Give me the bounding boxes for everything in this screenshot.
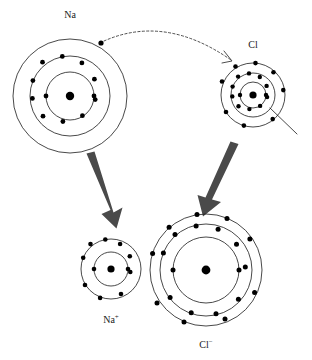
chloride-ion-charge-superscript: −: [209, 338, 213, 346]
electron-dot: [230, 94, 234, 98]
electron-dot: [93, 97, 98, 102]
electron-dot: [242, 123, 247, 128]
electron-dot: [214, 311, 219, 316]
bohr-model-canvas: Na: [0, 0, 312, 360]
electron-dot: [258, 104, 262, 108]
electron-dot: [195, 212, 200, 217]
electron-dot: [103, 237, 108, 242]
electron-dot: [223, 317, 228, 322]
chlorine-atom-label: Cl: [248, 39, 258, 50]
electron-dot: [155, 301, 160, 306]
electron-dot: [247, 71, 251, 75]
electron-dot: [171, 268, 176, 273]
diagram-background: [0, 0, 312, 360]
electron-dot: [98, 296, 103, 301]
electron-dot: [236, 74, 240, 78]
electron-dot: [230, 84, 234, 88]
electron-dot: [92, 77, 97, 82]
electron-dot: [173, 232, 178, 237]
electron-dot: [167, 225, 172, 230]
electron-dot: [247, 237, 252, 242]
electron-dot: [258, 75, 262, 79]
electron-dot: [253, 61, 258, 66]
sodium-ion-nucleus: [107, 265, 114, 272]
electron-dot: [189, 310, 194, 315]
sodium-nucleus: [66, 92, 74, 100]
electron-dot: [271, 70, 276, 75]
electron-dot: [150, 251, 155, 256]
electron-dot: [40, 60, 45, 65]
electron-dot: [233, 64, 238, 69]
chlorine-nucleus: [249, 91, 256, 98]
electron-dot: [60, 54, 65, 59]
electron-dot: [80, 113, 85, 118]
sodium-atom-label: Na: [64, 9, 76, 20]
ionic-bonding-diagram: Na: [0, 0, 312, 360]
chloride-ion-nucleus: [202, 266, 211, 275]
electron-dot: [265, 95, 269, 99]
electron-dot: [270, 117, 275, 122]
electron-dot: [238, 93, 242, 97]
sodium-valence-electron: [98, 40, 103, 45]
electron-dot: [264, 84, 268, 88]
electron-dot: [236, 297, 241, 302]
sodium-ion-charge-superscript: +: [115, 313, 119, 321]
electron-dot: [31, 78, 36, 83]
electron-dot: [61, 119, 66, 124]
chloride-ion-label-base: Cl: [199, 339, 209, 350]
electron-dot: [224, 110, 229, 115]
electron-dot: [225, 216, 230, 221]
electron-dot: [220, 79, 225, 84]
electron-dot: [252, 290, 257, 295]
electron-dot: [119, 292, 124, 297]
electron-dot: [237, 268, 242, 273]
electron-dot: [234, 242, 239, 247]
electron-dot: [88, 242, 93, 247]
electron-dot: [128, 254, 133, 259]
electron-dot: [216, 227, 221, 232]
electron-dot: [161, 250, 166, 255]
electron-dot: [92, 267, 97, 272]
electron-dot: [44, 94, 49, 99]
electron-dot: [182, 320, 187, 325]
electron-dot: [118, 242, 123, 247]
electron-dot: [80, 61, 85, 66]
electron-dot: [194, 224, 199, 229]
electron-dot: [83, 283, 88, 288]
electron-dot: [168, 295, 173, 300]
electron-dot: [128, 270, 133, 275]
electron-dot: [243, 264, 248, 269]
sodium-ion-label-base: Na: [103, 314, 115, 325]
electron-dot: [247, 107, 251, 111]
electron-dot: [236, 104, 240, 108]
electron-dot: [30, 96, 35, 101]
electron-dot: [81, 255, 86, 260]
electron-dot: [41, 114, 46, 119]
electron-dot: [281, 88, 286, 93]
